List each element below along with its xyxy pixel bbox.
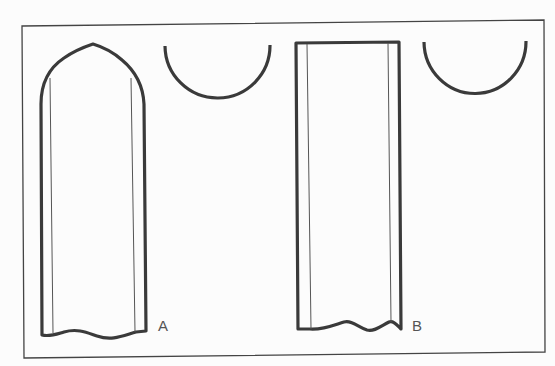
- figure-b-outline: [296, 42, 401, 330]
- diagram-canvas: A B: [0, 0, 555, 366]
- figure-b-inner-right: [388, 43, 391, 322]
- figure-b-semicircle: [424, 41, 526, 93]
- figure-a-outline: [41, 44, 146, 338]
- diagram-svg: [0, 0, 555, 366]
- figure-a-label: A: [158, 318, 168, 333]
- figure-a-semicircle: [165, 45, 270, 98]
- figure-b: [296, 41, 526, 330]
- outer-frame: [22, 20, 545, 358]
- figure-b-label: B: [412, 318, 422, 333]
- figure-a-inner-right: [131, 78, 135, 332]
- figure-b-inner-left: [307, 44, 311, 329]
- figure-a: [41, 44, 270, 338]
- figure-a-inner-left: [50, 78, 53, 333]
